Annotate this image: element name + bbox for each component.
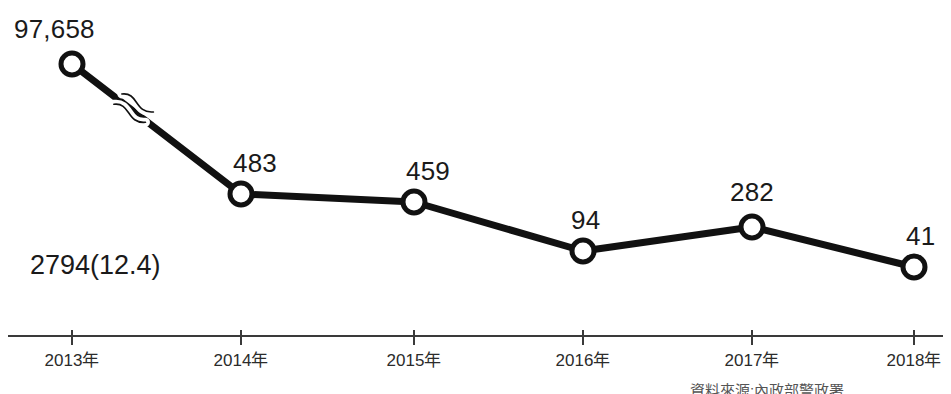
data-point-2018 bbox=[903, 256, 925, 278]
x-tick-label-2013: 2013年 bbox=[45, 352, 100, 369]
point-label-2018: 41 bbox=[906, 223, 935, 249]
data-point-2014 bbox=[230, 183, 252, 205]
x-tick-label-2015: 2015年 bbox=[387, 352, 442, 369]
x-tick-label-2018: 2018年 bbox=[887, 352, 942, 369]
point-label-2014: 483 bbox=[233, 150, 277, 176]
series-line bbox=[72, 64, 914, 267]
x-tick-label-2014: 2014年 bbox=[214, 352, 269, 369]
chart-annotation: 2794(12.4) bbox=[30, 252, 161, 279]
series-markers bbox=[61, 53, 925, 278]
chart-canvas: 97,658 483 459 94 282 41 2013年 2014年 201… bbox=[0, 0, 951, 394]
data-point-2013 bbox=[61, 53, 83, 75]
data-point-2017 bbox=[741, 216, 763, 238]
x-tick-label-2017: 2017年 bbox=[725, 352, 780, 369]
line-chart-graphic bbox=[0, 0, 951, 394]
point-label-2017: 282 bbox=[730, 179, 774, 205]
data-point-2015 bbox=[403, 191, 425, 213]
point-label-2016: 94 bbox=[571, 207, 600, 233]
source-note: 資料來源:內政部警政署 bbox=[690, 383, 844, 394]
x-tick-label-2016: 2016年 bbox=[556, 352, 611, 369]
x-axis-ticks bbox=[72, 330, 914, 345]
point-label-2013: 97,658 bbox=[14, 16, 95, 42]
point-label-2015: 459 bbox=[406, 158, 450, 184]
data-point-2016 bbox=[572, 240, 594, 262]
